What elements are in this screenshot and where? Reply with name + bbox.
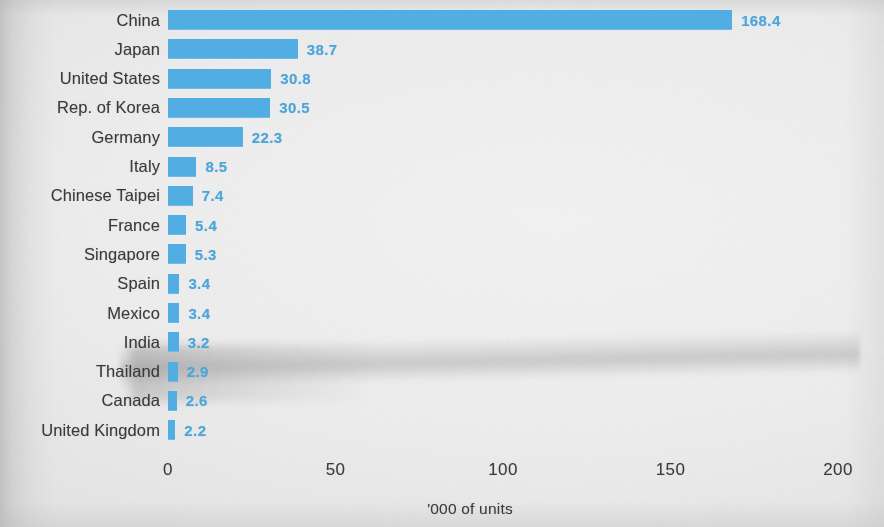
bar (168, 10, 732, 30)
bar-value-label: 30.8 (280, 70, 311, 87)
bar (168, 186, 193, 206)
plot-area: China168.4Japan38.7United States30.8Rep.… (0, 0, 884, 527)
bar (168, 127, 243, 147)
bar-row: Japan38.7 (0, 38, 884, 60)
x-axis-tick: 150 (656, 460, 685, 480)
bar-value-label: 168.4 (741, 12, 781, 29)
bar (168, 420, 175, 440)
category-label: Spain (0, 274, 160, 293)
bar-track: 3.4 (168, 274, 210, 294)
bar-track: 3.2 (168, 332, 210, 352)
bar-track: 168.4 (168, 10, 781, 30)
bar (168, 98, 270, 118)
bar (168, 157, 196, 177)
bar-row: Spain3.4 (0, 273, 884, 295)
bar-value-label: 3.2 (188, 334, 210, 351)
bar (168, 303, 179, 323)
bar-track: 30.5 (168, 98, 310, 118)
bar-track: 7.4 (168, 186, 224, 206)
bar-value-label: 2.9 (187, 363, 209, 380)
category-label: France (0, 216, 160, 235)
category-label: China (0, 11, 160, 30)
x-axis-tick: 0 (163, 460, 173, 480)
bar-value-label: 5.3 (195, 246, 217, 263)
bar-value-label: 3.4 (188, 275, 210, 292)
bar (168, 39, 298, 59)
bar-value-label: 7.4 (202, 187, 224, 204)
x-axis-caption: '000 of units (168, 500, 772, 518)
bar-value-label: 8.5 (205, 158, 227, 175)
bar-track: 8.5 (168, 157, 228, 177)
bar-row: Germany22.3 (0, 126, 884, 148)
category-label: Singapore (0, 245, 160, 264)
bar (168, 274, 179, 294)
category-label: Mexico (0, 304, 160, 323)
x-axis-tick: 100 (488, 460, 517, 480)
bar-track: 5.3 (168, 244, 217, 264)
bar-chart-figure: China168.4Japan38.7United States30.8Rep.… (0, 0, 884, 527)
bar-row: Chinese Taipei7.4 (0, 185, 884, 207)
category-label: India (0, 333, 160, 352)
bar-row: Canada2.6 (0, 390, 884, 412)
category-label: United Kingdom (0, 421, 160, 440)
category-label: United States (0, 69, 160, 88)
bar-row: Rep. of Korea30.5 (0, 97, 884, 119)
bar-value-label: 3.4 (188, 305, 210, 322)
category-label: Italy (0, 157, 160, 176)
category-label: Chinese Taipei (0, 186, 160, 205)
bar-row: United States30.8 (0, 68, 884, 90)
bar (168, 391, 177, 411)
bar-track: 3.4 (168, 303, 210, 323)
bar-row: China168.4 (0, 9, 884, 31)
x-axis-tick: 50 (326, 460, 346, 480)
bar-track: 2.6 (168, 391, 208, 411)
category-label: Canada (0, 391, 160, 410)
bar-row: Singapore5.3 (0, 243, 884, 265)
category-label: Japan (0, 40, 160, 59)
bar-track: 2.2 (168, 420, 206, 440)
bar (168, 362, 178, 382)
bar-value-label: 5.4 (195, 217, 217, 234)
category-label: Thailand (0, 362, 160, 381)
bar (168, 244, 186, 264)
category-label: Rep. of Korea (0, 98, 160, 117)
bar-value-label: 30.5 (279, 99, 310, 116)
bar-value-label: 22.3 (252, 129, 283, 146)
bar-track: 2.9 (168, 362, 209, 382)
bar (168, 332, 179, 352)
bar-value-label: 38.7 (307, 41, 338, 58)
bar-row: Italy8.5 (0, 156, 884, 178)
bar-track: 5.4 (168, 215, 217, 235)
bar-row: Thailand2.9 (0, 361, 884, 383)
bar-value-label: 2.2 (184, 422, 206, 439)
bar-track: 22.3 (168, 127, 283, 147)
category-label: Germany (0, 128, 160, 147)
bar-row: India3.2 (0, 331, 884, 353)
bar-value-label: 2.6 (186, 392, 208, 409)
bar-row: United Kingdom2.2 (0, 419, 884, 441)
bar-track: 38.7 (168, 39, 337, 59)
bar-row: France5.4 (0, 214, 884, 236)
x-axis-tick: 200 (823, 460, 852, 480)
bar (168, 69, 271, 89)
bar-row: Mexico3.4 (0, 302, 884, 324)
bar (168, 215, 186, 235)
bar-track: 30.8 (168, 69, 311, 89)
x-axis-tick-labels: 050100150200 (0, 460, 884, 486)
